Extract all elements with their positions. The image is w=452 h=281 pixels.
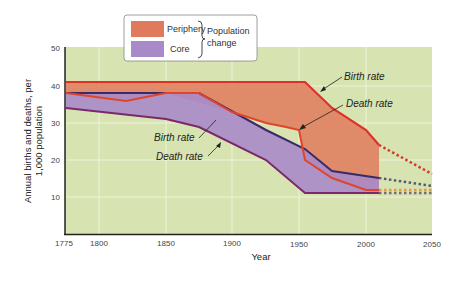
x-axis-title: Year — [251, 251, 270, 262]
legend-label-periphery: Periphery — [167, 24, 206, 34]
x-tick: 1775 — [55, 239, 73, 248]
x-tick: 1800 — [90, 239, 108, 248]
annotation-periphery-death-rate: Death rate — [346, 98, 393, 109]
legend-swatch-core — [131, 41, 164, 57]
legend-group-label-2: change — [207, 38, 237, 48]
y-tick: 30 — [51, 119, 60, 128]
x-tick: 1950 — [290, 240, 308, 249]
annotation-periphery-birth-rate: Birth rate — [344, 71, 385, 82]
x-tick: 1850 — [157, 239, 175, 248]
legend-group-label-1: Population — [207, 26, 250, 36]
y-tick: 50 — [51, 44, 60, 53]
legend: Periphery Core Population change — [124, 15, 257, 61]
x-tick-labels: 1775 1800 1850 1900 1950 2000 2050 — [55, 239, 441, 249]
x-tick: 2050 — [423, 240, 441, 249]
demographic-transition-chart: 10 20 30 40 50 1775 1800 1850 1900 1950 … — [0, 0, 452, 281]
annotation-core-death-rate: Death rate — [156, 151, 203, 162]
y-tick: 10 — [51, 193, 60, 202]
y-tick: 20 — [51, 156, 60, 165]
annotation-core-birth-rate: Birth rate — [154, 132, 195, 143]
legend-swatch-periphery — [131, 21, 164, 37]
y-axis-title-line1: Annual births and deaths, per — [22, 79, 33, 203]
x-tick: 2000 — [357, 240, 375, 249]
x-tick: 1900 — [223, 239, 241, 248]
y-axis-title-line2: 1,000 population — [33, 106, 44, 176]
legend-label-core: Core — [170, 44, 190, 54]
y-tick-labels: 10 20 30 40 50 — [51, 44, 60, 202]
y-tick: 40 — [51, 82, 60, 91]
y-axis-title: Annual births and deaths, per 1,000 popu… — [22, 79, 44, 203]
